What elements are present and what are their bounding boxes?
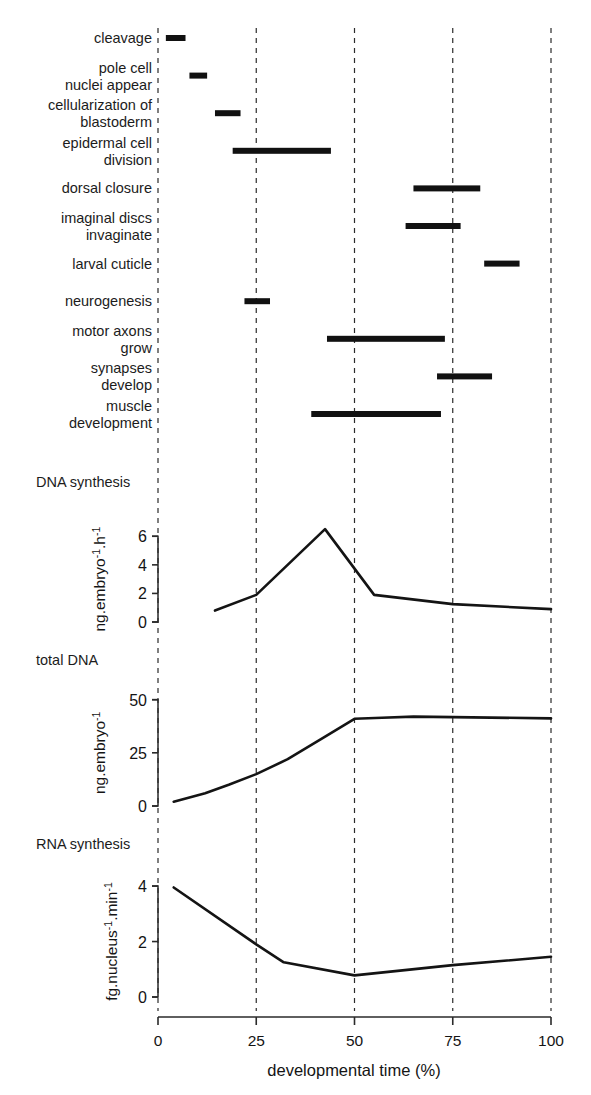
x-axis-title: developmental time (%) bbox=[267, 1061, 440, 1079]
panel-dna-synthesis: DNA synthesis 0246 bbox=[36, 474, 551, 631]
event-label-line: dorsal closure bbox=[62, 180, 152, 196]
y-tick-label: 4 bbox=[138, 557, 147, 574]
panel-title-total-dna: total DNA bbox=[36, 652, 98, 668]
event-label-line: nuclei appear bbox=[65, 77, 152, 93]
event-label-line: division bbox=[104, 152, 152, 168]
panel-total-dna: total DNA 02550 bbox=[36, 652, 551, 815]
event-label-line: neurogenesis bbox=[65, 293, 152, 309]
y-tick-label: 4 bbox=[138, 878, 147, 895]
event-bar bbox=[233, 148, 331, 154]
y-tick-label: 25 bbox=[129, 745, 147, 762]
event-label-line: invaginate bbox=[86, 227, 152, 243]
event-bar bbox=[413, 185, 480, 191]
data-line-dna-synthesis bbox=[215, 529, 551, 610]
event-label-line: motor axons bbox=[72, 323, 152, 339]
y-axis-total-dna: 02550 bbox=[129, 692, 158, 815]
event-label-line: develop bbox=[101, 377, 152, 393]
event-bar bbox=[437, 373, 492, 379]
event-bar bbox=[406, 223, 461, 229]
event-label-line: pole cell bbox=[99, 60, 152, 76]
data-line-total-dna bbox=[174, 717, 551, 802]
event-label-line: larval cuticle bbox=[72, 256, 152, 272]
y-tick-label: 0 bbox=[138, 614, 147, 631]
event-bar bbox=[484, 261, 519, 267]
y-axis-unit-label: fg.nucleus-1.min-1 bbox=[102, 882, 120, 1001]
x-axis: 0255075100 developmental time (%) bbox=[154, 1017, 565, 1079]
data-line-rna-synthesis bbox=[174, 887, 551, 975]
event-label-line: cellularization of bbox=[48, 97, 153, 113]
event-bar bbox=[311, 411, 441, 417]
timeline-bars-group bbox=[166, 35, 520, 417]
event-label-line: blastoderm bbox=[80, 114, 152, 130]
x-tick-label: 100 bbox=[538, 1032, 564, 1049]
y-axis-rna-synthesis: 024 bbox=[138, 878, 158, 1006]
y-tick-label: 50 bbox=[129, 692, 147, 709]
x-tick-label: 0 bbox=[154, 1032, 163, 1049]
event-bar bbox=[215, 110, 241, 116]
y-tick-label: 6 bbox=[138, 528, 147, 545]
y-axis-unit-label: ng.embryo-1 bbox=[90, 711, 108, 794]
event-label-line: epidermal cell bbox=[63, 135, 152, 151]
y-tick-label: 2 bbox=[138, 585, 147, 602]
y-tick-label: 0 bbox=[138, 989, 147, 1006]
event-bar bbox=[327, 336, 445, 342]
timeline-labels-group: cleavagepole cellnuclei appearcellulariz… bbox=[48, 30, 153, 431]
x-tick-label: 25 bbox=[248, 1032, 265, 1049]
x-tick-label: 75 bbox=[444, 1032, 461, 1049]
event-label-line: synapses bbox=[91, 360, 152, 376]
y-axis-spine bbox=[152, 536, 158, 622]
event-label-line: grow bbox=[121, 340, 153, 356]
event-bar bbox=[166, 35, 186, 41]
gridlines-group bbox=[158, 28, 551, 1011]
event-label-line: imaginal discs bbox=[61, 210, 152, 226]
y-tick-label: 0 bbox=[138, 798, 147, 815]
panel-title-dna-synthesis: DNA synthesis bbox=[36, 474, 130, 490]
developmental-biology-figure: cleavagepole cellnuclei appearcellulariz… bbox=[0, 0, 591, 1095]
event-label-line: development bbox=[69, 415, 152, 431]
y-axis-dna-synthesis: 0246 bbox=[138, 528, 158, 631]
figure-canvas: cleavagepole cellnuclei appearcellulariz… bbox=[0, 0, 591, 1095]
y-axis-unit-label: ng.embryo-1.h-1 bbox=[90, 527, 108, 632]
event-bar bbox=[244, 298, 270, 304]
y-tick-label: 2 bbox=[138, 934, 147, 951]
x-axis-ticks: 0255075100 bbox=[154, 1017, 565, 1049]
event-label-line: muscle bbox=[106, 398, 152, 414]
panel-title-rna-synthesis: RNA synthesis bbox=[36, 836, 130, 852]
x-tick-label: 50 bbox=[346, 1032, 364, 1049]
event-bar bbox=[189, 73, 207, 79]
y-axis-unit-labels: ng.embryo-1.h-1ng.embryo-1fg.nucleus-1.m… bbox=[90, 527, 120, 1001]
event-label-line: cleavage bbox=[94, 30, 152, 46]
